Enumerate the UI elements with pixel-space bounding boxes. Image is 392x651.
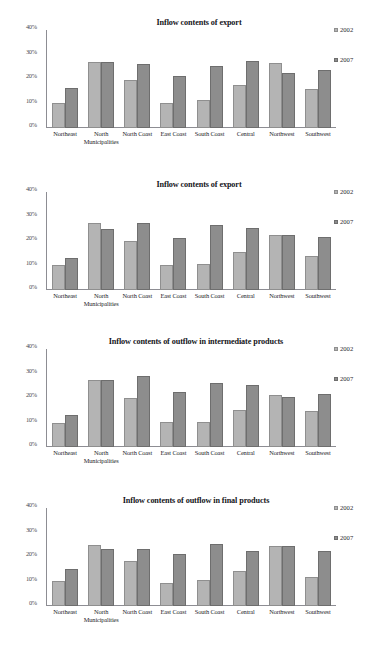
legend-item-2002[interactable]: 2002 <box>334 26 353 33</box>
bar-2002[interactable] <box>197 100 210 128</box>
bar-2002[interactable] <box>52 423 65 448</box>
bar-2007[interactable] <box>318 237 331 290</box>
bar-2002[interactable] <box>88 545 101 606</box>
bar-2007[interactable] <box>318 70 331 128</box>
bar-2007[interactable] <box>137 549 150 606</box>
bar-groups <box>47 30 336 128</box>
bar-2002[interactable] <box>269 63 282 128</box>
bar-2002[interactable] <box>305 577 318 606</box>
bar-2007[interactable] <box>101 62 114 128</box>
x-axis-label-line1: Central <box>237 130 255 137</box>
bar-2002[interactable] <box>160 583 173 606</box>
bar-2002[interactable] <box>88 223 101 290</box>
bar-2002[interactable] <box>305 256 318 290</box>
bar-2002[interactable] <box>52 103 65 128</box>
bar-group <box>119 508 155 606</box>
bar-group <box>228 349 264 447</box>
bar-2007[interactable] <box>246 228 259 290</box>
bar-2007[interactable] <box>318 394 331 447</box>
bar-2007[interactable] <box>173 238 186 290</box>
bar-group <box>155 30 191 128</box>
bar-2007[interactable] <box>173 554 186 606</box>
x-axis-label-line1: Northwest <box>269 292 294 299</box>
bar-group <box>264 508 300 606</box>
bar-2007[interactable] <box>282 397 295 447</box>
bar-2007[interactable] <box>282 546 295 606</box>
legend-label: 2002 <box>340 504 353 511</box>
bar-2007[interactable] <box>137 64 150 128</box>
y-axis-tick: 20% <box>26 550 37 557</box>
bar-2002[interactable] <box>269 235 282 290</box>
bar-2002[interactable] <box>305 89 318 128</box>
x-axis-label-line1: Central <box>237 608 255 615</box>
y-axis-tick: 30% <box>26 209 37 216</box>
bar-2002[interactable] <box>124 561 137 606</box>
legend-item-2007[interactable]: 2007 <box>334 218 353 225</box>
legend-label: 2002 <box>340 188 353 195</box>
bar-2007[interactable] <box>282 235 295 290</box>
bar-2007[interactable] <box>137 223 150 290</box>
x-axis-label: South Coast <box>192 608 228 624</box>
bar-2007[interactable] <box>101 549 114 606</box>
bar-2002[interactable] <box>233 85 246 128</box>
bar-2002[interactable] <box>124 398 137 447</box>
bar-2007[interactable] <box>246 551 259 606</box>
bar-2007[interactable] <box>101 380 114 447</box>
bar-2007[interactable] <box>101 229 114 290</box>
bar-2002[interactable] <box>88 62 101 128</box>
bar-2002[interactable] <box>269 395 282 447</box>
legend-item-2002[interactable]: 2002 <box>334 504 353 511</box>
y-axis-tick: 30% <box>26 525 37 532</box>
chart-3: Inflow contents of outflow in intermedia… <box>0 333 392 488</box>
bar-2002[interactable] <box>197 422 210 447</box>
x-axis-label: Northeast <box>47 292 83 308</box>
bar-2007[interactable] <box>65 258 78 290</box>
y-axis-tick: 10% <box>26 96 37 103</box>
bar-2002[interactable] <box>160 103 173 128</box>
bar-2002[interactable] <box>160 265 173 290</box>
bar-2002[interactable] <box>233 410 246 447</box>
y-axis-tick: 0% <box>29 599 37 606</box>
bar-2007[interactable] <box>137 376 150 447</box>
bar-2002[interactable] <box>305 411 318 447</box>
bar-2002[interactable] <box>160 422 173 447</box>
bar-2002[interactable] <box>52 265 65 290</box>
x-axis-label-line1: Northeast <box>53 608 77 615</box>
bar-2007[interactable] <box>210 66 223 128</box>
bar-2007[interactable] <box>65 415 78 447</box>
bar-2007[interactable] <box>173 392 186 447</box>
bar-group <box>228 508 264 606</box>
bar-2007[interactable] <box>210 225 223 290</box>
bar-2002[interactable] <box>124 241 137 290</box>
x-axis-label-line1: North Coast <box>123 608 152 615</box>
bar-2002[interactable] <box>197 580 210 606</box>
bar-2007[interactable] <box>246 385 259 447</box>
bar-2007[interactable] <box>210 383 223 447</box>
bar-2007[interactable] <box>65 569 78 606</box>
legend-item-2002[interactable]: 2002 <box>334 188 353 195</box>
y-axis: 40%30%20%10%0% <box>0 504 42 606</box>
legend-item-2002[interactable]: 2002 <box>334 345 353 352</box>
bar-2002[interactable] <box>124 80 137 128</box>
bar-2002[interactable] <box>52 581 65 606</box>
x-axis-label-line1: Southwest <box>305 608 330 615</box>
bar-2007[interactable] <box>246 61 259 128</box>
bar-2002[interactable] <box>233 252 246 290</box>
x-axis-label-line2: Municipalities <box>83 457 119 465</box>
legend-item-2007[interactable]: 2007 <box>334 56 353 63</box>
bar-2002[interactable] <box>88 380 101 447</box>
bar-groups <box>47 349 336 447</box>
bar-2002[interactable] <box>269 546 282 606</box>
bar-2007[interactable] <box>318 551 331 606</box>
x-axis-label-line1: South Coast <box>195 449 224 456</box>
y-axis-tick: 40% <box>26 501 37 508</box>
legend-item-2007[interactable]: 2007 <box>334 375 353 382</box>
bar-2002[interactable] <box>197 264 210 290</box>
legend-label: 2002 <box>340 26 353 33</box>
bar-2007[interactable] <box>173 76 186 128</box>
bar-2007[interactable] <box>282 73 295 128</box>
bar-2007[interactable] <box>65 88 78 128</box>
bar-2002[interactable] <box>233 571 246 606</box>
legend-item-2007[interactable]: 2007 <box>334 534 353 541</box>
bar-2007[interactable] <box>210 544 223 606</box>
